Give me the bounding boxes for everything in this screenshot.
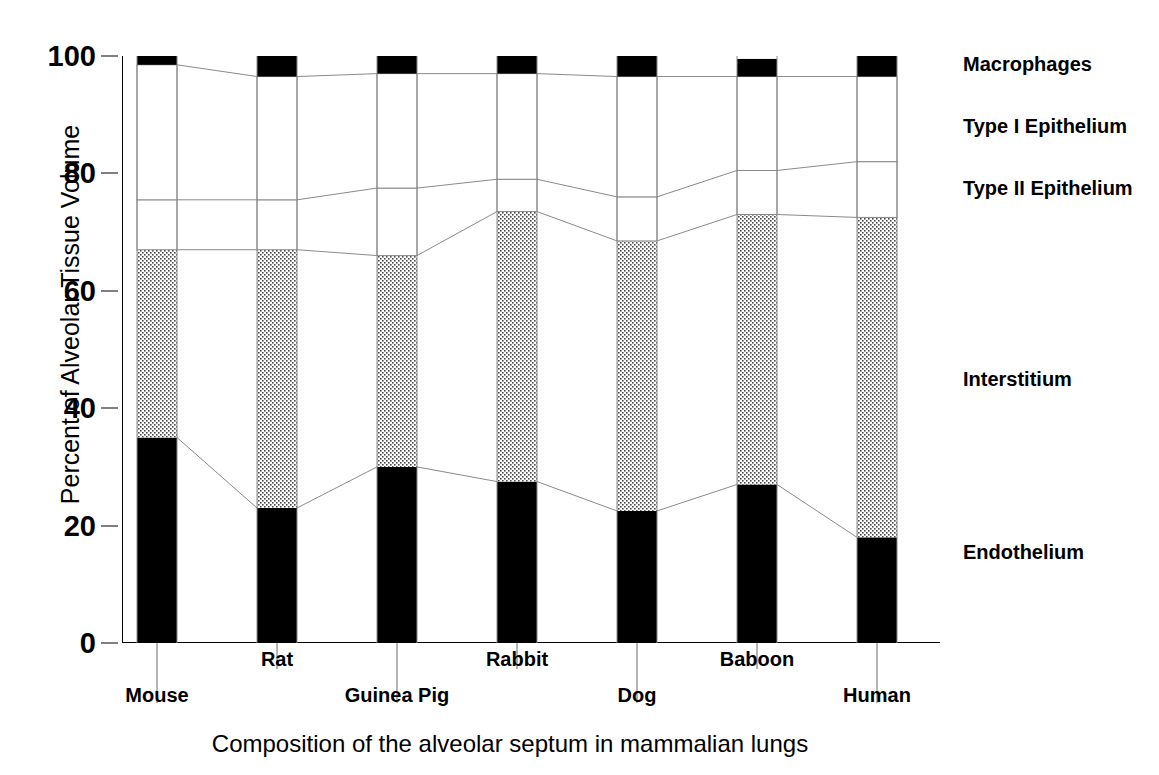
segment-endothelium[interactable]	[497, 482, 537, 643]
bar-rabbit[interactable]	[497, 56, 537, 643]
segment-type-ii-epithelium[interactable]	[137, 200, 177, 250]
connector-type-ii-epithelium	[297, 188, 377, 200]
connector-type-ii-epithelium	[777, 162, 857, 171]
connector-type-i-epithelium	[537, 74, 617, 77]
y-axis-title: Percent of Alveolar Tissue Volume	[56, 65, 85, 565]
segment-macrophages[interactable]	[857, 56, 897, 77]
connector-interstitium	[777, 214, 857, 217]
connector-endothelium	[177, 438, 257, 508]
series-label-interstitium: Interstitium	[963, 367, 1072, 390]
segment-interstitium[interactable]	[737, 214, 777, 484]
bar-layer	[137, 56, 897, 643]
x-axis-title: Composition of the alveolar septum in ma…	[0, 730, 1020, 758]
y-tick-label-80: 80	[64, 157, 96, 190]
bar-guinea-pig[interactable]	[377, 56, 417, 643]
y-tick-label-60: 60	[64, 274, 96, 307]
series-label-type-ii-epithelium: Type II Epithelium	[963, 177, 1133, 200]
segment-type-i-epithelium[interactable]	[497, 74, 537, 180]
y-tick-mark-100	[101, 56, 118, 57]
segment-type-ii-epithelium[interactable]	[497, 179, 537, 211]
bar-mouse[interactable]	[137, 56, 177, 643]
series-label-type-i-epithelium: Type I Epithelium	[963, 115, 1127, 138]
x-category-label-rat: Rat	[261, 648, 293, 671]
y-tick-label-40: 40	[64, 392, 96, 425]
segment-interstitium[interactable]	[257, 250, 297, 508]
y-tick-mark-80	[101, 173, 118, 174]
segment-interstitium[interactable]	[137, 250, 177, 438]
stacked-bar-svg	[122, 56, 940, 643]
y-tick-mark-20	[101, 525, 118, 526]
segment-interstitium[interactable]	[377, 256, 417, 467]
segment-macrophages[interactable]	[377, 56, 417, 74]
connector-endothelium	[537, 482, 617, 511]
plot-area: 100806040200	[122, 56, 940, 643]
connector-type-ii-epithelium	[537, 179, 617, 197]
segment-type-i-epithelium[interactable]	[857, 77, 897, 162]
segment-endothelium[interactable]	[617, 511, 657, 643]
chart-page: Percent of Alveolar Tissue Volume 100806…	[0, 0, 1159, 775]
x-category-label-baboon: Baboon	[720, 648, 794, 671]
segment-macrophages[interactable]	[137, 56, 177, 65]
segment-type-ii-epithelium[interactable]	[257, 200, 297, 250]
segment-interstitium[interactable]	[497, 212, 537, 482]
segment-endothelium[interactable]	[377, 467, 417, 643]
x-category-label-guinea-pig: Guinea Pig	[345, 684, 449, 707]
connector-type-ii-epithelium	[417, 179, 497, 188]
connector-interstitium	[657, 214, 737, 240]
segment-macrophages[interactable]	[497, 56, 537, 74]
segment-macrophages[interactable]	[257, 56, 297, 77]
segment-macrophages[interactable]	[737, 59, 777, 77]
segment-type-ii-epithelium[interactable]	[377, 188, 417, 256]
segment-macrophages[interactable]	[617, 56, 657, 77]
bar-dog[interactable]	[617, 56, 657, 643]
bar-rat[interactable]	[257, 56, 297, 643]
connector-endothelium	[777, 485, 857, 538]
connector-interstitium	[417, 212, 497, 256]
y-tick-mark-0	[101, 643, 118, 644]
segment-type-i-epithelium[interactable]	[617, 77, 657, 197]
y-tick-mark-40	[101, 408, 118, 409]
segment-interstitium[interactable]	[617, 241, 657, 511]
connector-type-ii-epithelium	[657, 170, 737, 196]
x-category-label-rabbit: Rabbit	[486, 648, 548, 671]
segment-type-ii-epithelium[interactable]	[617, 197, 657, 241]
y-tick-mark-60	[101, 290, 118, 291]
y-tick-label-0: 0	[80, 627, 96, 660]
connector-type-i-epithelium	[297, 74, 377, 77]
segment-type-ii-epithelium[interactable]	[857, 162, 897, 218]
bar-human[interactable]	[857, 56, 897, 643]
x-category-label-human: Human	[843, 684, 911, 707]
connector-endothelium	[297, 467, 377, 508]
connector-endothelium	[657, 485, 737, 511]
x-category-label-mouse: Mouse	[125, 684, 188, 707]
segment-type-i-epithelium[interactable]	[257, 77, 297, 200]
segment-type-i-epithelium[interactable]	[737, 77, 777, 171]
series-label-endothelium: Endothelium	[963, 541, 1084, 564]
bar-baboon[interactable]	[737, 56, 777, 643]
segment-endothelium[interactable]	[737, 485, 777, 643]
y-tick-label-20: 20	[64, 509, 96, 542]
segment-type-i-epithelium[interactable]	[137, 65, 177, 200]
y-tick-label-100: 100	[48, 40, 96, 73]
segment-interstitium[interactable]	[857, 217, 897, 537]
segment-endothelium[interactable]	[257, 508, 297, 643]
connector-type-i-epithelium	[177, 65, 257, 77]
segment-type-ii-epithelium[interactable]	[737, 170, 777, 214]
connector-endothelium	[417, 467, 497, 482]
x-category-label-dog: Dog	[618, 684, 657, 707]
segment-endothelium[interactable]	[137, 438, 177, 643]
connector-interstitium	[297, 250, 377, 256]
connector-interstitium	[537, 212, 617, 241]
series-label-macrophages: Macrophages	[963, 53, 1092, 76]
segment-type-i-epithelium[interactable]	[377, 74, 417, 188]
segment-endothelium[interactable]	[857, 537, 897, 643]
